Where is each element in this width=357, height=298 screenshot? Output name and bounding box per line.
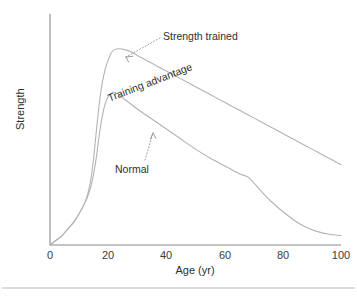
y-axis-title: Strength: [14, 88, 26, 130]
leader-strength-trained: [126, 38, 160, 57]
series-line-strength-trained: [50, 49, 341, 245]
x-tick-label-20: 20: [102, 249, 114, 261]
x-tick-label-80: 80: [277, 249, 289, 261]
annotation-strength-trained: Strength trained: [163, 30, 238, 42]
x-tick-label-100: 100: [332, 249, 350, 261]
x-axis-title: Age (yr): [175, 264, 214, 276]
series-line-normal: [50, 92, 341, 245]
chart-canvas: [0, 0, 357, 298]
annotation-normal: Normal: [115, 163, 149, 175]
leader-arrowhead-normal: [150, 133, 156, 139]
x-tick-label-0: 0: [47, 249, 53, 261]
leader-arrowhead-strength-trained: [126, 56, 133, 62]
leader-normal: [145, 133, 153, 160]
x-tick-label-60: 60: [219, 249, 231, 261]
figure-strength-vs-age: 0 20 40 60 80 100 Age (yr) Strength Stre…: [0, 0, 357, 298]
x-tick-label-40: 40: [160, 249, 172, 261]
